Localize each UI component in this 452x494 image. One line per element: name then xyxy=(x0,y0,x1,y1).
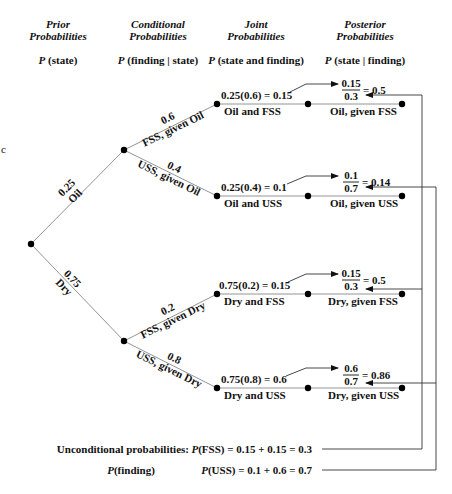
node-root xyxy=(28,241,34,247)
header-conditional-line2: Probabilities xyxy=(129,30,186,42)
node-post-2 xyxy=(399,193,405,199)
joint-dry-uss: 0.75(0.8) = 0.6 Dry and USS xyxy=(221,373,287,401)
node-post-3 xyxy=(399,291,405,297)
unconditional-section: Unconditional probabilities: P(finding) … xyxy=(57,443,313,477)
svg-text:0.1: 0.1 xyxy=(344,169,358,181)
joint-label: Dry and USS xyxy=(224,389,286,401)
posterior-label: Oil, given FSS xyxy=(330,105,397,117)
joint-label: Oil and FSS xyxy=(224,105,281,117)
arrow-joint-1 xyxy=(290,84,338,92)
header-posterior-formula: P (state | finding) xyxy=(325,54,406,67)
node-oil xyxy=(121,147,127,153)
tree-branches xyxy=(31,104,401,388)
p-fss-formula: P(FSS) = 0.15 + 0.15 = 0.3 xyxy=(191,443,312,456)
joint-formula: 0.75(0.2) = 0.15 xyxy=(219,279,291,292)
header-joint: Joint Probabilities P (state and finding… xyxy=(208,18,304,67)
arrow-joint-4 xyxy=(286,368,338,376)
node-oil-fss xyxy=(214,101,220,107)
svg-text:= 0.86: = 0.86 xyxy=(362,369,391,381)
branch-dry xyxy=(31,244,124,341)
header-joint-line1: Joint xyxy=(243,18,268,30)
header-conditional: Conditional Probabilities P (finding | s… xyxy=(118,18,199,67)
node-post-1 xyxy=(399,101,405,107)
header-posterior-line1: Posterior xyxy=(344,18,386,30)
posterior-label: Oil, given USS xyxy=(330,197,398,209)
joint-label: Dry and FSS xyxy=(224,295,285,307)
posterior-label: Dry, given USS xyxy=(328,389,399,401)
probability-tree-diagram: Prior Probabilities P (state) Conditiona… xyxy=(0,0,452,494)
posterior-oil-fss: 0.15 0.3 = 0.5 Oil, given FSS xyxy=(330,77,397,117)
label-cond-uss-dry: 0.8 USS, given Dry xyxy=(134,337,210,390)
joint-formula: 0.25(0.4) = 0.1 xyxy=(221,181,287,194)
joint-to-posterior-arrows xyxy=(286,84,338,376)
node-mid-3 xyxy=(305,291,311,297)
svg-text:0.3: 0.3 xyxy=(344,90,358,102)
joint-label: Oil and USS xyxy=(224,197,282,209)
header-prior-line2: Probabilities xyxy=(29,30,86,42)
joint-oil-uss: 0.25(0.4) = 0.1 Oil and USS xyxy=(221,181,287,209)
arrow-joint-2 xyxy=(287,176,338,184)
unconditional-title: Unconditional probabilities: xyxy=(57,443,189,455)
node-mid-4 xyxy=(305,385,311,391)
posterior-dry-fss: 0.15 0.3 = 0.5 Dry, given FSS xyxy=(328,267,398,307)
joint-formula: 0.25(0.6) = 0.15 xyxy=(221,89,293,102)
joint-formula: 0.75(0.8) = 0.6 xyxy=(221,373,287,386)
node-mid-2 xyxy=(305,193,311,199)
header-conditional-formula: P (finding | state) xyxy=(118,54,199,67)
joint-oil-fss: 0.25(0.6) = 0.15 Oil and FSS xyxy=(221,89,293,117)
tree-nodes xyxy=(28,101,405,391)
label-cond-fss-dry: 0.2 FSS, given Dry xyxy=(133,288,207,341)
svg-text:0.6: 0.6 xyxy=(344,362,358,374)
header-posterior-line2: Probabilities xyxy=(336,30,393,42)
svg-text:0.15: 0.15 xyxy=(341,77,361,89)
svg-text:= 0.5: = 0.5 xyxy=(363,84,386,96)
svg-text:= 0.5: = 0.5 xyxy=(363,274,386,286)
header-prior-line1: Prior xyxy=(46,18,71,30)
svg-text:= 0.14: = 0.14 xyxy=(362,176,391,188)
label-cond-uss-oil: 0.4 USS, given Oil xyxy=(136,146,208,197)
svg-text:0.7: 0.7 xyxy=(344,375,358,387)
header-prior: Prior Probabilities P (state) xyxy=(29,18,86,67)
node-dry-uss xyxy=(214,385,220,391)
label-cond-fss-oil: 0.6 FSS, given Oil xyxy=(135,98,206,149)
header-joint-line2: Probabilities xyxy=(227,30,284,42)
header-joint-formula: P (state and finding) xyxy=(208,54,304,67)
node-oil-uss xyxy=(214,193,220,199)
label-prior-oil: 0.25 Oil xyxy=(55,176,86,207)
node-dry-fss xyxy=(214,291,220,297)
posterior-label: Dry, given FSS xyxy=(328,295,398,307)
connector-uss-oil xyxy=(322,187,436,470)
node-post-4 xyxy=(399,385,405,391)
p-uss-formula: P(USS) = 0.1 + 0.6 = 0.7 xyxy=(201,464,312,477)
node-mid-1 xyxy=(305,101,311,107)
header-prior-formula: P (state) xyxy=(39,54,78,67)
node-dry xyxy=(121,338,127,344)
posterior-dry-uss: 0.6 0.7 = 0.86 Dry, given USS xyxy=(328,362,399,401)
joint-dry-fss: 0.75(0.2) = 0.15 Dry and FSS xyxy=(219,279,291,307)
posterior-oil-uss: 0.1 0.7 = 0.14 Oil, given USS xyxy=(330,169,398,209)
svg-text:0.15: 0.15 xyxy=(341,267,361,279)
arrow-joint-3 xyxy=(288,274,338,282)
header-conditional-line1: Conditional xyxy=(131,18,186,30)
stray-character: c xyxy=(1,143,6,155)
svg-text:0.7: 0.7 xyxy=(344,182,358,194)
unconditional-subtitle: P(finding) xyxy=(107,464,155,477)
svg-text:0.3: 0.3 xyxy=(344,280,358,292)
header-posterior: Posterior Probabilities P (state | findi… xyxy=(325,18,406,67)
